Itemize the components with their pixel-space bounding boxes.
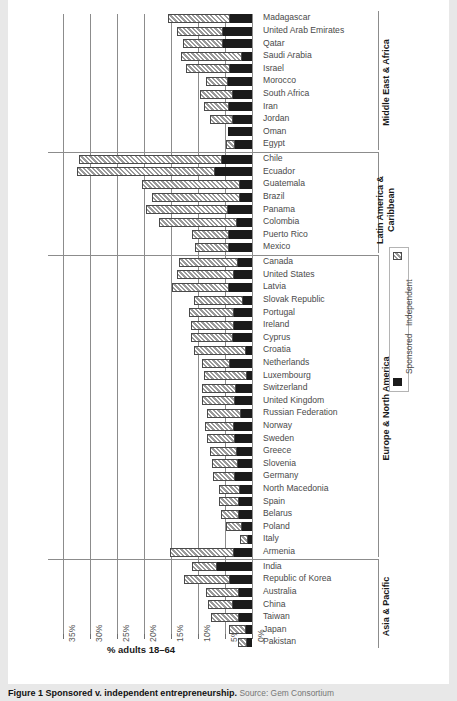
caption-figure-number: Figure 1 [8,688,43,698]
country-label: Portugal [263,307,295,317]
country-label: North Macedonia [263,483,328,493]
bar-segment-sponsored [240,193,252,202]
x-axis-title: % adults 18–64 [107,644,175,655]
bar-segment-independent [205,422,234,431]
bar-segment-independent [200,90,233,99]
bar-segment-independent [186,64,230,73]
bar-segment-sponsored [234,321,252,330]
country-label: Spain [263,496,285,506]
country-label: Saudi Arabia [263,50,312,60]
bar-segment-independent [210,447,237,456]
country-label: Colombia [263,216,299,226]
bar-segment-independent [194,296,243,305]
country-label: Ecuador [263,166,295,176]
bar-segment-sponsored [239,510,252,519]
figure-caption: Figure 1 Sponsored v. independent entrep… [8,688,449,698]
bar-segment-independent [183,39,224,48]
bar-segment-sponsored [242,522,252,531]
country-label: United Arab Emirates [263,25,344,35]
bar-segment-sponsored [233,115,252,124]
bar-segment-sponsored [229,102,252,111]
legend-label-sponsored: Sponsored [404,333,414,374]
bar-segment-sponsored [233,600,252,609]
group-brace [378,255,379,557]
bar-segment-sponsored [239,613,252,622]
country-label: South Africa [263,88,309,98]
bar-segment-sponsored [229,283,252,292]
country-label: Cyprus [263,332,290,342]
bar-segment-independent [207,434,235,443]
bar-segment-independent [229,625,245,634]
bar-segment-independent [204,371,246,380]
bar-segment-sponsored [246,625,252,634]
bar-segment-independent [142,180,239,189]
group-label-line: Middle East & Africa [380,39,390,126]
country-label: Republic of Korea [263,573,331,583]
country-label: Germany [263,470,298,480]
bar-segment-independent [189,308,234,317]
group-brace [378,11,379,150]
bar-segment-sponsored [233,333,252,342]
bar-segment-independent [168,14,231,23]
country-label: Armenia [263,546,295,556]
country-label: Russian Federation [263,407,338,417]
bar-segment-independent [159,218,237,227]
bar-segment-sponsored [215,167,252,176]
bar-segment-sponsored [239,497,252,506]
country-label: Pakistan [263,636,296,646]
bar-segment-sponsored [236,384,252,393]
bar-segment-independent [179,258,238,267]
country-label: Chile [263,153,283,163]
bar-segment-sponsored [230,359,252,368]
bar-segment-independent [202,396,234,405]
bar-segment-independent [226,140,235,149]
bar-segment-sponsored [237,447,252,456]
bar-segment-independent [181,52,242,61]
bar-segment-independent [238,638,247,647]
country-label: United Kingdom [263,395,324,405]
bar-segment-sponsored [217,562,252,571]
bar-segment-sponsored [235,472,252,481]
bar-segment-independent [191,321,234,330]
bar-segment-sponsored [223,27,252,36]
bar-segment-independent [206,77,228,86]
bar-segment-independent [172,283,229,292]
bar-segment-independent [210,115,232,124]
bar-segment-sponsored [223,39,252,48]
bar-segment-independent [177,27,223,36]
bar-segment-independent [219,497,240,506]
country-label: Japan [263,624,286,634]
bar-segment-independent [77,167,215,176]
country-label: Qatar [263,38,285,48]
country-label: Israel [263,63,284,73]
country-label: Croatia [263,344,291,354]
bar-segment-sponsored [228,77,252,86]
bar-segment-sponsored [238,459,252,468]
country-label: Norway [263,420,292,430]
bar-segment-independent [240,535,248,544]
country-label: Belarus [263,508,292,518]
bar-segment-sponsored [222,155,252,164]
country-label: Panama [263,204,295,214]
country-label: Egypt [263,138,285,148]
group-label-line: Caribbean [386,188,396,232]
bar-segment-sponsored [240,485,252,494]
bar-segment-independent [213,472,236,481]
legend-label-independent: Independent [404,279,414,326]
bar-segment-sponsored [235,434,252,443]
country-label: Ireland [263,319,289,329]
bar-segment-sponsored [229,230,252,239]
bar-segment-sponsored [242,52,252,61]
figure-page: 35%30%25%20%15%10%5%0%MadagascarUnited A… [0,0,457,701]
country-label: Mexico [263,241,290,251]
bar-segment-sponsored [248,535,252,544]
bar-segment-sponsored [247,371,252,380]
bar-segment-independent [191,333,233,342]
bar-segment-sponsored [241,409,252,418]
country-label: Morocco [263,75,296,85]
bar-segment-independent [212,459,238,468]
bar-segment-independent [202,384,235,393]
bar-segment-independent [195,243,230,252]
bar-segment-independent [208,600,232,609]
bar-segment-sponsored [230,64,252,73]
